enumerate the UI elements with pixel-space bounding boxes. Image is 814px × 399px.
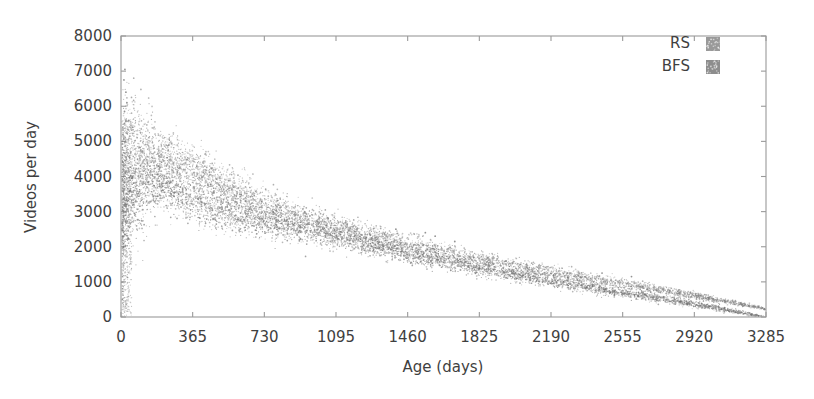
plot-frame: [121, 36, 766, 317]
plot-canvas: 03657301095146018252190255529203285 0100…: [0, 0, 814, 399]
y-tick-label: 7000: [74, 62, 112, 80]
x-tick-label: 2555: [604, 328, 642, 346]
outlier-point: [424, 232, 426, 234]
series-bfs: [121, 120, 764, 317]
y-tick-label: 5000: [74, 132, 112, 150]
y-tick-label: 8000: [74, 27, 112, 45]
x-tick-label: 365: [178, 328, 207, 346]
legend-swatch-rs: [706, 37, 721, 52]
outlier-point: [132, 126, 134, 128]
x-axis-title: Age (days): [403, 358, 484, 376]
x-tick-label: 1460: [389, 328, 427, 346]
x-tick-label: 730: [250, 328, 279, 346]
outlier-point: [125, 91, 127, 93]
outlier-point: [122, 133, 124, 135]
x-tick-label: 1825: [460, 328, 498, 346]
outlier-point: [601, 272, 603, 274]
y-tick-label: 0: [102, 308, 112, 326]
series-rs: [121, 77, 765, 310]
outlier-point: [434, 235, 436, 237]
y-axis-ticks: [121, 36, 766, 317]
x-axis-ticks: [121, 36, 766, 317]
y-tick-label: 4000: [74, 168, 112, 186]
data-points-layer: [121, 68, 766, 316]
y-tick-label: 6000: [74, 97, 112, 115]
outlier-point: [128, 119, 130, 121]
outlier-point: [123, 79, 125, 81]
y-axis-tick-labels: 010002000300040005000600070008000: [74, 27, 112, 326]
legend-swatch-bfs: [706, 60, 721, 74]
y-tick-label: 3000: [74, 203, 112, 221]
x-tick-label: 1095: [317, 328, 355, 346]
x-axis-tick-labels: 03657301095146018252190255529203285: [116, 328, 785, 346]
outlier-point: [124, 111, 126, 113]
x-tick-label: 3285: [747, 328, 785, 346]
legend-label-bfs: BFS: [662, 57, 690, 75]
outlier-point: [126, 102, 128, 104]
x-tick-label: 2190: [532, 328, 570, 346]
y-tick-label: 1000: [74, 273, 112, 291]
outlier-point: [454, 241, 456, 243]
x-tick-label: 0: [116, 328, 126, 346]
legend: RSBFS: [662, 34, 722, 75]
y-tick-label: 2000: [74, 238, 112, 256]
legend-label-rs: RS: [670, 34, 690, 52]
y-axis-title: Videos per day: [22, 121, 40, 233]
x-tick-label: 2920: [675, 328, 713, 346]
outlier-point: [124, 68, 126, 70]
outlier-point: [631, 276, 633, 278]
scatter-plot-figure: 03657301095146018252190255529203285 0100…: [0, 0, 814, 399]
outlier-point: [395, 228, 397, 230]
